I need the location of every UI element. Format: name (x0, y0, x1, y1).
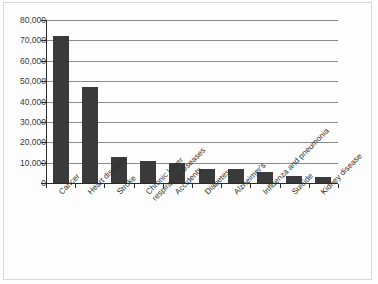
bar (257, 172, 273, 183)
y-axis-labels: 80,00070,00060,00050,00040,00030,00020,0… (0, 20, 46, 183)
bar (199, 169, 215, 183)
y-axis-tick (41, 61, 47, 62)
x-axis-tick (250, 184, 251, 188)
bar (140, 161, 156, 183)
gridline (46, 61, 338, 62)
y-axis-tick-label: 70,000 (0, 36, 46, 45)
gridline (46, 20, 338, 21)
bar (53, 36, 69, 183)
bar (169, 163, 185, 183)
y-axis-tick-label: 10,000 (0, 159, 46, 168)
x-axis-tick (338, 184, 339, 188)
gridline (46, 81, 338, 82)
y-axis-tick-label: 0 (0, 179, 46, 188)
plot-area: 80,00070,00060,00050,00040,00030,00020,0… (46, 20, 338, 183)
x-axis-tick (221, 184, 222, 188)
bar (228, 169, 244, 183)
x-axis-tick (163, 184, 164, 188)
x-axis-tick (46, 184, 47, 188)
x-axis-tick (75, 184, 76, 188)
y-axis-tick-label: 60,000 (0, 57, 46, 66)
y-axis-tick (41, 40, 47, 41)
y-axis-tick-label: 50,000 (0, 77, 46, 86)
y-axis-tick-label: 40,000 (0, 98, 46, 107)
y-axis-tick (41, 20, 47, 21)
y-axis-tick-label: 30,000 (0, 118, 46, 127)
bar (111, 157, 127, 183)
y-axis-tick (41, 142, 47, 143)
bar (286, 176, 302, 183)
bar-chart-figure: 80,00070,00060,00050,00040,00030,00020,0… (0, 0, 378, 284)
x-axis-tick (280, 184, 281, 188)
gridline (46, 40, 338, 41)
y-axis-tick-label: 80,000 (0, 16, 46, 25)
y-axis-tick (41, 81, 47, 82)
x-axis-tick (192, 184, 193, 188)
y-axis-tick (41, 122, 47, 123)
x-axis-tick (104, 184, 105, 188)
y-axis-tick (41, 102, 47, 103)
y-axis-tick (41, 163, 47, 164)
bar (315, 177, 331, 183)
bar (82, 87, 98, 183)
y-axis-tick-label: 20,000 (0, 138, 46, 147)
x-axis-tick (309, 184, 310, 188)
x-axis-tick (134, 184, 135, 188)
